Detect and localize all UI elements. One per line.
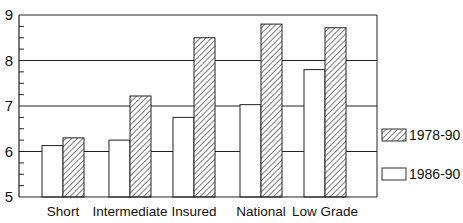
- bar-1986-90: [42, 146, 63, 197]
- x-tick-label: Insured: [171, 204, 216, 219]
- legend-label-1978-90: 1978-90: [409, 127, 461, 143]
- legend-swatch-plain: [382, 168, 406, 180]
- bar-1986-90: [304, 70, 325, 197]
- x-tick-label: National: [236, 204, 286, 219]
- legend: 1978-90 1986-90: [382, 127, 461, 182]
- y-tick-label: 5: [5, 188, 13, 205]
- bar-chart: 56789 ShortIntermediateInsuredNationalLo…: [0, 0, 463, 223]
- bar-1986-90: [240, 105, 261, 197]
- bar-1978-90: [325, 28, 346, 197]
- legend-swatch-hatched: [382, 129, 406, 141]
- bar-1986-90: [109, 140, 130, 197]
- bar-1978-90: [194, 38, 215, 197]
- y-tick-label: 9: [5, 6, 13, 23]
- x-axis-labels: ShortIntermediateInsuredNationalLow Grad…: [47, 204, 358, 219]
- bar-1978-90: [63, 138, 84, 197]
- x-tick-label: Low Grade: [292, 204, 358, 219]
- legend-label-1986-90: 1986-90: [409, 166, 461, 182]
- y-axis-labels: 56789: [5, 6, 13, 205]
- y-tick-label: 7: [5, 97, 13, 114]
- bars: [42, 24, 346, 197]
- x-tick-label: Short: [47, 204, 80, 219]
- y-tick-label: 6: [5, 143, 13, 160]
- x-tick-label: Intermediate: [92, 204, 167, 219]
- bar-1986-90: [173, 117, 194, 197]
- bar-1978-90: [261, 24, 282, 197]
- y-tick-label: 8: [5, 52, 13, 69]
- bar-1978-90: [130, 96, 151, 197]
